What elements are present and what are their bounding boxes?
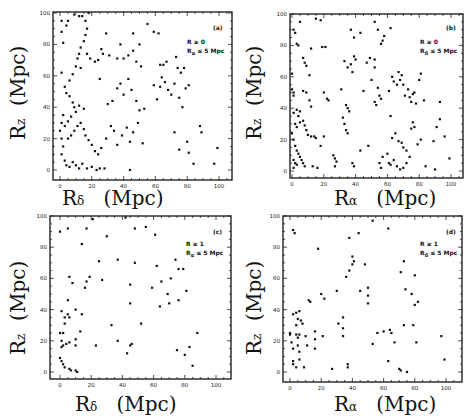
data-point (67, 20, 69, 22)
data-point (353, 165, 355, 167)
data-point (342, 316, 344, 318)
data-point (348, 270, 350, 272)
data-point (89, 57, 91, 59)
data-point (390, 332, 392, 334)
data-point (375, 104, 377, 106)
data-point (351, 162, 353, 164)
data-point (64, 316, 66, 318)
data-point (348, 110, 350, 112)
data-point (378, 95, 380, 97)
data-point (298, 310, 300, 312)
data-point (86, 28, 88, 30)
data-point (410, 128, 412, 130)
data-point (95, 169, 97, 171)
data-point (314, 348, 316, 350)
data-point (134, 262, 136, 264)
data-point (397, 71, 399, 73)
data-point (81, 243, 83, 245)
data-point (70, 116, 72, 118)
data-point (129, 284, 131, 286)
data-point (306, 344, 308, 346)
data-point (159, 86, 161, 88)
data-point (294, 123, 296, 125)
data-point (170, 277, 172, 279)
data-point (119, 83, 121, 85)
data-point (308, 74, 310, 76)
svg-text:40: 40 (349, 385, 356, 391)
svg-text:0: 0 (58, 183, 62, 189)
data-point (92, 218, 94, 220)
data-point (127, 54, 129, 56)
data-point (315, 137, 317, 139)
data-point (334, 157, 336, 159)
data-point (366, 62, 368, 64)
data-point (65, 24, 67, 26)
data-point (159, 64, 161, 66)
svg-text:80: 80 (40, 244, 47, 250)
data-point (382, 40, 384, 42)
svg-text:40: 40 (119, 382, 126, 388)
data-point (145, 226, 147, 228)
data-point (448, 157, 450, 159)
data-point (359, 149, 361, 151)
data-point (377, 87, 379, 89)
data-point (192, 365, 194, 367)
data-point (131, 343, 133, 345)
data-point (60, 153, 62, 155)
data-point (105, 138, 107, 140)
data-point (299, 21, 301, 23)
data-point (391, 137, 393, 139)
data-point (307, 134, 309, 136)
data-point (400, 369, 402, 371)
data-point (292, 360, 294, 362)
data-point (409, 96, 411, 98)
data-point (382, 156, 384, 158)
data-point (72, 101, 74, 103)
data-point (107, 103, 109, 105)
data-point (402, 167, 404, 169)
data-point (370, 79, 372, 81)
scatter-plots: 0020204040606080801001000020204040606080… (0, 0, 473, 420)
data-point (324, 46, 326, 48)
data-point (432, 140, 434, 142)
svg-text:40: 40 (273, 307, 280, 313)
data-point (389, 27, 391, 29)
data-point (296, 164, 298, 166)
data-point (355, 58, 357, 60)
data-point (305, 91, 307, 93)
data-point (291, 73, 293, 75)
svg-text:20: 20 (88, 382, 95, 388)
data-point (345, 129, 347, 131)
data-point (412, 324, 414, 326)
data-point (132, 131, 134, 133)
data-point (116, 87, 118, 89)
data-point (417, 301, 419, 303)
data-point (320, 19, 322, 21)
data-point (65, 343, 67, 345)
data-point (369, 57, 371, 59)
data-point (345, 276, 347, 278)
svg-text:60: 60 (152, 183, 159, 189)
data-point (153, 31, 155, 33)
data-point (298, 333, 300, 335)
data-point (176, 349, 178, 351)
data-point (295, 333, 297, 335)
data-point (64, 323, 66, 325)
data-point (380, 98, 382, 100)
data-point (305, 335, 307, 337)
data-point (60, 310, 62, 312)
data-point (67, 313, 69, 315)
data-point (180, 72, 182, 74)
data-point (292, 313, 294, 315)
data-point (364, 263, 366, 265)
data-point (108, 54, 110, 56)
data-point (296, 149, 298, 151)
data-point (292, 167, 294, 169)
data-point (308, 99, 310, 101)
data-point (420, 73, 422, 75)
svg-text:20: 20 (320, 181, 327, 187)
data-point (60, 20, 62, 22)
data-point (188, 152, 190, 154)
data-point (348, 237, 350, 239)
data-point (178, 97, 180, 99)
